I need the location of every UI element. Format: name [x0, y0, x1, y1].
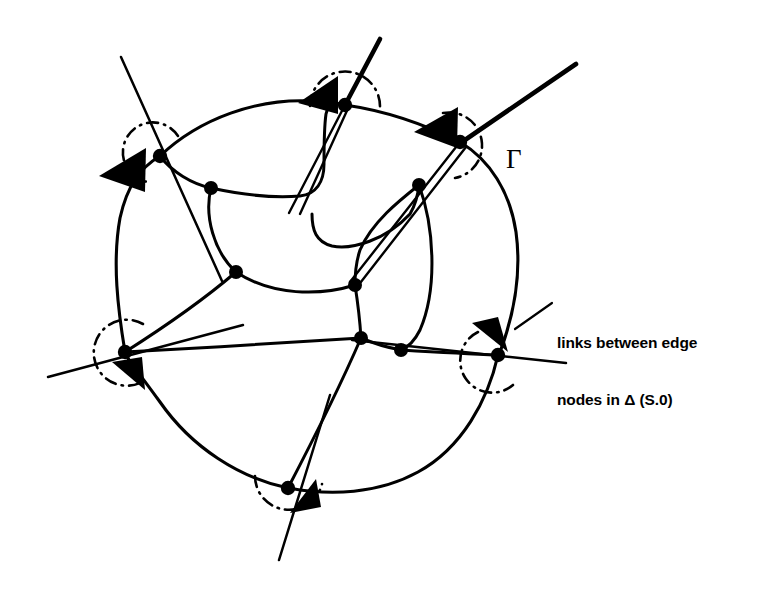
edge-node-dot-top-right — [453, 135, 467, 149]
mesh-edge-i2-i3 — [236, 272, 355, 292]
arrowhead-right-icon — [472, 317, 508, 352]
interior-node-dot-i3 — [348, 278, 362, 292]
arrowhead-top-right-icon — [414, 107, 458, 148]
gamma-curve-label: Γ — [506, 143, 522, 176]
ray-top-right-branch-a — [350, 142, 460, 282]
interior-node-dot-i1 — [204, 181, 218, 195]
interior-node-dot-i4 — [412, 178, 426, 192]
interior-node-dot-i2 — [229, 265, 243, 279]
mesh-edge-left-i5 — [125, 338, 361, 352]
boundary-crossing-rays — [48, 39, 576, 560]
annotation-leader-line — [515, 303, 552, 329]
mesh-edge-i2-left — [125, 272, 236, 352]
mesh-edge-i3-i5 — [355, 285, 361, 338]
annotation-line-2: nodes in Δ (S.0) — [557, 391, 697, 410]
annotation-line-1: links between edge — [557, 334, 697, 353]
arrowhead-top-center-icon — [298, 76, 338, 114]
edge-node-links-annotation: links between edge nodes in Δ (S.0) — [557, 296, 697, 447]
mesh-edge-u-loop — [211, 104, 345, 197]
edge-node-dot-top-center — [338, 98, 352, 112]
edge-node-dot-left — [118, 345, 132, 359]
figure-root: Γ links between edge nodes in Δ (S.0) — [0, 0, 767, 606]
ray-top-right-branch-b — [357, 147, 466, 287]
arrowhead-bottom-icon — [290, 479, 321, 513]
interior-mesh — [125, 104, 498, 488]
interior-node-dot-i6 — [394, 343, 408, 357]
edge-node-dot-bottom — [281, 481, 295, 495]
interior-node-dot-i5 — [354, 331, 368, 345]
mesh-edge-i5-bottom — [288, 338, 361, 488]
edge-node-dot-top-left — [153, 149, 167, 163]
edge-node-dot-right — [491, 348, 505, 362]
annotation-leader — [515, 303, 552, 329]
